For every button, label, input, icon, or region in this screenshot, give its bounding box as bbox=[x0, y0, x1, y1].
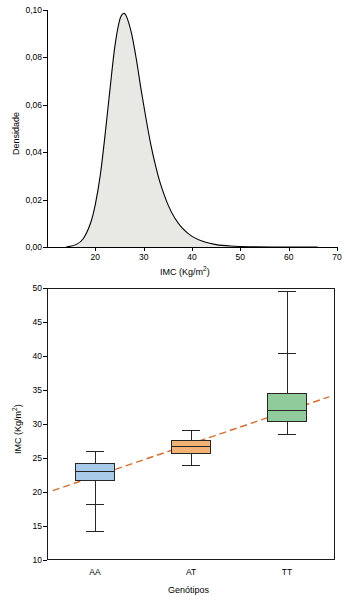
category-label-AA: AA bbox=[75, 568, 115, 577]
density-x-tick-label: 20 bbox=[86, 253, 104, 262]
boxplot-y-tick-label: 25 bbox=[21, 454, 42, 463]
density-fill bbox=[66, 13, 317, 247]
boxplot-y-tick bbox=[43, 424, 47, 425]
box-TT bbox=[267, 393, 307, 422]
whisker-lower bbox=[287, 422, 288, 434]
boxplot-y-tick-label: 10 bbox=[21, 556, 42, 565]
boxplot-y-tick bbox=[43, 356, 47, 357]
whisker-upper bbox=[287, 291, 288, 394]
boxplot-x-axis-title: Genótipos bbox=[168, 586, 209, 595]
density-x-tick bbox=[192, 247, 193, 251]
density-x-tick-label: 60 bbox=[280, 253, 298, 262]
density-curve bbox=[47, 10, 337, 247]
box-group-TT bbox=[47, 288, 335, 560]
category-label-AT: AT bbox=[171, 568, 211, 577]
density-y-axis-title: Densidade bbox=[12, 111, 21, 154]
boxplot-y-tick-label: 30 bbox=[21, 420, 42, 429]
boxplot-y-axis-title: IMC (Kg/m2) bbox=[12, 404, 23, 454]
density-y-tick-label: 0,06 bbox=[15, 101, 42, 110]
figure-page: 2030405060700,000,020,040,060,080,10 IMC… bbox=[0, 0, 362, 607]
density-y-tick bbox=[43, 152, 47, 153]
density-x-tick bbox=[289, 247, 290, 251]
density-chart-panel: 2030405060700,000,020,040,060,080,10 IMC… bbox=[0, 0, 362, 278]
density-x-tick-label: 40 bbox=[183, 253, 201, 262]
density-x-tick-label: 70 bbox=[328, 253, 346, 262]
boxplot-y-tick bbox=[43, 322, 47, 323]
density-y-tick bbox=[43, 57, 47, 58]
density-x-tick bbox=[95, 247, 96, 251]
density-y-tick bbox=[43, 10, 47, 11]
median-TT bbox=[267, 410, 307, 411]
density-y-axis bbox=[47, 10, 48, 247]
boxplot-y-tick bbox=[43, 492, 47, 493]
density-y-tick-label: 0,02 bbox=[15, 196, 42, 205]
density-x-axis-title: IMC (Kg/m2) bbox=[160, 266, 210, 277]
boxplot-plot-area bbox=[47, 288, 335, 560]
density-x-tick-label: 50 bbox=[231, 253, 249, 262]
boxplot-y-tick bbox=[43, 560, 47, 561]
boxplot-y-tick bbox=[43, 526, 47, 527]
superscript: 2 bbox=[11, 407, 18, 411]
density-plot-area bbox=[47, 10, 337, 247]
boxplot-y-tick bbox=[43, 390, 47, 391]
density-x-tick bbox=[337, 247, 338, 251]
density-x-tick bbox=[240, 247, 241, 251]
density-y-tick bbox=[43, 200, 47, 201]
whisker-cap-lower bbox=[278, 434, 296, 435]
boxplot-y-tick-label: 35 bbox=[21, 386, 42, 395]
density-x-tick bbox=[144, 247, 145, 251]
boxplot-y-tick-label: 45 bbox=[21, 318, 42, 327]
density-y-tick-label: 0,08 bbox=[15, 53, 42, 62]
boxplot-y-tick-label: 50 bbox=[21, 284, 42, 293]
category-label-TT: TT bbox=[267, 568, 307, 577]
density-x-tick-label: 30 bbox=[135, 253, 153, 262]
boxplot-y-tick-label: 20 bbox=[21, 488, 42, 497]
boxplot-y-tick-label: 40 bbox=[21, 352, 42, 361]
boxplot-y-tick-label: 15 bbox=[21, 522, 42, 531]
boxplot-chart-panel: 101520253035404550 AAATTT Genótipos IMC … bbox=[0, 278, 362, 607]
whisker-cap-upper bbox=[278, 291, 296, 292]
superscript: 2 bbox=[203, 265, 207, 272]
density-y-tick bbox=[43, 247, 47, 248]
boxplot-y-tick bbox=[43, 458, 47, 459]
whisker-cap-inner-upper bbox=[278, 353, 296, 354]
density-y-tick-label: 0,10 bbox=[15, 6, 42, 15]
boxplot-y-tick bbox=[43, 288, 47, 289]
density-y-tick bbox=[43, 105, 47, 106]
density-y-tick-label: 0,00 bbox=[15, 243, 42, 252]
